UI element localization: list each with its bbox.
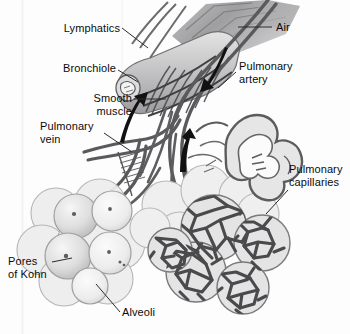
label-smooth-muscle: Smoothmuscle <box>47 92 132 117</box>
label-air: Air <box>276 21 316 34</box>
label-pores-of-kohn: Poresof Kohn <box>8 255 78 280</box>
label-lymphatics: Lymphatics <box>35 22 120 35</box>
figure-canvas: Lymphatics Bronchiole Smoothmuscle Pulmo… <box>0 0 350 334</box>
label-pulmonary-artery: Pulmonaryartery <box>239 60 334 85</box>
label-bronchiole: Bronchiole <box>31 62 116 75</box>
label-pulmonary-capillaries: Pulmonarycapillaries <box>289 163 350 188</box>
label-pulmonary-vein: Pulmonaryvein <box>40 120 130 145</box>
label-alveoli: Alveoli <box>122 306 182 319</box>
